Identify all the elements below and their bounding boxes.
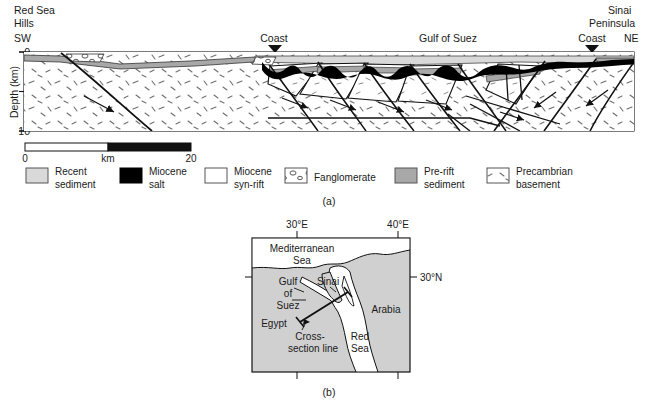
label-coast-right: Coast: [578, 32, 606, 44]
legend-label-miocene-synrift-line1: Miocene: [234, 166, 272, 177]
legend-label-recent-sediment-line1: Recent: [55, 166, 87, 177]
depth-axis: [19, 52, 24, 131]
legend-swatch-recent-sediment: [26, 168, 48, 183]
legend-label-miocene-salt-line2: salt: [149, 179, 165, 190]
legend-label-precambrian-basement-line2: basement: [516, 179, 560, 190]
panel-b-label: (b): [323, 386, 336, 398]
legend-label-pre-rift-sediment-line1: Pre-rift: [424, 166, 454, 177]
label-direction-sw: SW: [14, 32, 31, 44]
label-sinai-peninsula-line1: Sinai: [608, 4, 631, 16]
map-label-gulf-line2: of: [284, 288, 293, 299]
label-coast-left: Coast: [260, 32, 288, 44]
figure-svg: Red Sea Hills SW Sinai Peninsula NE Coas…: [0, 0, 658, 406]
map-coord-30e: 30°E: [286, 219, 308, 230]
map-label-mediterranean-line1: Mediterranean: [270, 243, 334, 254]
map-label-egypt: Egypt: [261, 318, 287, 329]
legend-swatch-miocene-salt: [120, 168, 142, 183]
map-label-sinai: Sinai: [317, 276, 339, 287]
map-label-gulf-line1: Gulf: [279, 276, 298, 287]
map-label-cross-section-line2: section line: [288, 343, 338, 354]
axis-label-depth: Depth (km): [8, 66, 20, 118]
legend: Recent sediment Miocene salt Miocene syn…: [26, 166, 573, 190]
scale-bar-unit: km: [101, 153, 114, 164]
legend-label-miocene-synrift-line2: syn-rift: [234, 179, 264, 190]
legend-swatch-fanglomerate: [285, 168, 307, 183]
scale-bar-end: 20: [185, 153, 197, 164]
panel-a-label: (a): [323, 195, 336, 207]
legend-swatch-miocene-synrift: [205, 168, 227, 183]
legend-label-recent-sediment-line2: sediment: [55, 179, 96, 190]
figure-container: Red Sea Hills SW Sinai Peninsula NE Coas…: [0, 0, 658, 406]
map-label-mediterranean-line2: Sea: [293, 255, 311, 266]
scale-bar-black-half: [108, 143, 191, 151]
legend-label-fanglomerate: Fanglomerate: [314, 172, 376, 183]
legend-swatch-pre-rift-sediment: [395, 168, 417, 183]
legend-label-precambrian-basement-line1: Precambrian: [516, 166, 573, 177]
map-label-arabia: Arabia: [372, 304, 401, 315]
legend-item-miocene-salt: Miocene salt: [120, 166, 187, 190]
cross-section-geology: [24, 52, 634, 131]
map-label-red-sea-line1: Red: [351, 331, 369, 342]
legend-item-fanglomerate: Fanglomerate: [285, 168, 376, 183]
legend-item-precambrian-basement: Precambrian basement: [487, 166, 573, 190]
scale-bar: 0 km 20: [22, 143, 197, 164]
map-label-gulf-line3: Suez: [277, 300, 300, 311]
legend-swatch-precambrian-basement: [487, 168, 509, 183]
map-coord-40e: 40°E: [387, 219, 409, 230]
fanglomerate-ne: [252, 57, 276, 65]
legend-label-miocene-salt-line1: Miocene: [149, 166, 187, 177]
map-label-cross-section-line1: Cross-: [295, 331, 324, 342]
label-gulf-of-suez: Gulf of Suez: [419, 32, 477, 44]
legend-item-recent-sediment: Recent sediment: [26, 166, 96, 190]
label-sinai-peninsula-line2: Peninsula: [589, 17, 635, 29]
label-direction-ne: NE: [624, 32, 639, 44]
label-red-sea-hills-line1: Red Sea: [14, 4, 55, 16]
legend-item-miocene-synrift: Miocene syn-rift: [205, 166, 272, 190]
legend-label-pre-rift-sediment-line2: sediment: [424, 179, 465, 190]
scale-bar-start: 0: [22, 153, 28, 164]
legend-item-pre-rift-sediment: Pre-rift sediment: [395, 166, 465, 190]
map-label-red-sea-line2: Sea: [351, 343, 369, 354]
map-coord-30n: 30°N: [420, 272, 442, 283]
scale-bar-white-half: [25, 143, 108, 151]
label-red-sea-hills-line2: Hills: [14, 17, 34, 29]
